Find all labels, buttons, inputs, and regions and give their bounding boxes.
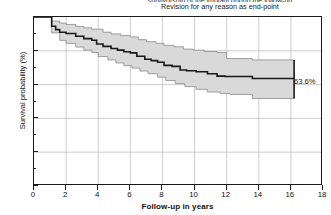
chart-title: Revision for any reason as end-point <box>120 2 320 11</box>
x-tick-label-0: 0 <box>22 190 44 199</box>
y-tick-40 <box>33 117 38 118</box>
x-tick-label-8: 8 <box>150 190 172 199</box>
y-minor-tick-90 <box>33 33 36 34</box>
x-tick-label-18: 18 <box>311 190 331 199</box>
x-tick-label-16: 16 <box>279 190 301 199</box>
y-minor-tick-50 <box>33 101 36 102</box>
x-tick-label-14: 14 <box>247 190 269 199</box>
confidence-band <box>34 17 294 98</box>
y-minor-tick-70 <box>33 67 36 68</box>
x-axis-title: Follow-up in years <box>33 202 322 211</box>
y-tick-80 <box>33 50 38 51</box>
x-tick-label-10: 10 <box>183 190 205 199</box>
y-axis-title: Survival probability (%) <box>18 16 27 166</box>
y-minor-tick-30 <box>33 134 36 135</box>
plot-canvas <box>34 17 321 184</box>
y-tick-60 <box>33 84 38 85</box>
end-point-annotation: 63.6% <box>294 77 316 86</box>
x-tick-label-4: 4 <box>86 190 108 199</box>
chart-title-block: survivorship of the implant during the f… <box>120 0 320 11</box>
x-tick-label-12: 12 <box>215 190 237 199</box>
y-tick-20 <box>33 151 38 152</box>
plot-inner <box>34 17 321 184</box>
y-minor-tick-10 <box>33 168 36 169</box>
y-tick-100 <box>33 16 38 17</box>
plot-area <box>33 16 322 185</box>
x-tick-label-6: 6 <box>118 190 140 199</box>
x-tick-label-2: 2 <box>54 190 76 199</box>
